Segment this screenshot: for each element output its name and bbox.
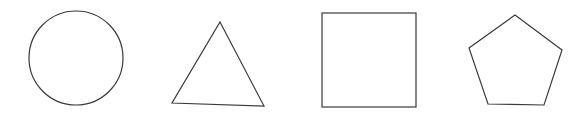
square-shape	[322, 13, 416, 107]
triangle-shape	[172, 22, 264, 106]
circle-shape	[29, 11, 123, 105]
pentagon-shape	[469, 15, 562, 105]
shapes-canvas	[0, 0, 587, 118]
